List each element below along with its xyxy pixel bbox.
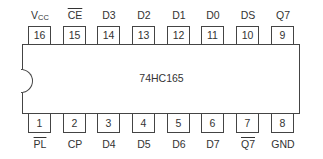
pin-7: 7 (236, 114, 259, 133)
vcc-label-sub: CC (38, 13, 49, 22)
pin-4-signal-label: D5 (127, 138, 161, 150)
part-number-label: 74HC165 (0, 72, 323, 84)
pin-9: 9 (271, 26, 294, 44)
pin-8-signal-label: GND (266, 138, 300, 150)
pin-16-signal-label: VCC (23, 9, 57, 22)
pin-12: 12 (167, 26, 190, 44)
pin-13-signal-label: D2 (127, 9, 161, 21)
pin-8: 8 (271, 114, 294, 133)
pin-9-signal-label: Q7 (266, 9, 300, 21)
pin-6-signal-label: D7 (196, 138, 230, 150)
pin-5: 5 (167, 114, 190, 133)
pin-7-signal-label: Q7 (231, 138, 265, 150)
pin-11: 11 (201, 26, 224, 44)
pin-6: 6 (201, 114, 224, 133)
pin-12-signal-label: D1 (162, 9, 196, 21)
pin-14-signal-label: D3 (92, 9, 126, 21)
pin-10: 10 (236, 26, 259, 44)
pin-1-signal-label: PL (23, 138, 57, 150)
pin-3-signal-label: D4 (92, 138, 126, 150)
pin-3: 3 (97, 114, 120, 133)
pin-4: 4 (132, 114, 155, 133)
pin-1: 1 (28, 114, 51, 133)
pin-15-signal-label: CE (58, 9, 92, 21)
pin-14: 14 (97, 26, 120, 44)
ic-pinout-diagram: VCC CE D3 D2 D1 D0 DS Q7 16 15 14 13 12 … (0, 0, 323, 159)
pin-10-signal-label: DS (231, 9, 265, 21)
pin-15: 15 (63, 26, 86, 44)
pin-16: 16 (28, 26, 51, 44)
pin-2: 2 (63, 114, 86, 133)
pin-13: 13 (132, 26, 155, 44)
pin-5-signal-label: D6 (162, 138, 196, 150)
pin-2-signal-label: CP (58, 138, 92, 150)
pin-11-signal-label: D0 (196, 9, 230, 21)
